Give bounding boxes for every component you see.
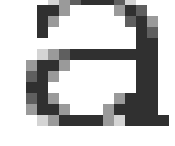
glyph-pixel <box>136 5 147 16</box>
glyph-pixel <box>48 71 59 82</box>
glyph-pixel <box>114 5 125 16</box>
glyph-pixel <box>48 60 59 71</box>
glyph-pixel <box>136 104 147 115</box>
glyph-pixel <box>125 104 136 115</box>
glyph-pixel <box>114 49 125 60</box>
glyph-pixel <box>92 49 103 60</box>
glyph-pixel <box>136 71 147 82</box>
glyph-pixel <box>92 0 103 5</box>
glyph-pixel <box>125 16 136 27</box>
glyph-pixel <box>103 0 114 5</box>
glyph-pixel <box>136 27 147 38</box>
glyph-pixel <box>125 49 136 60</box>
glyph-pixel <box>136 93 147 104</box>
glyph-pixel <box>48 104 59 115</box>
glyph-pixel <box>125 115 136 126</box>
glyph-pixel <box>136 82 147 93</box>
glyph-pixel <box>136 16 147 27</box>
glyph-pixel <box>81 115 92 126</box>
glyph-pixel <box>37 104 48 115</box>
glyph-pixel <box>103 115 114 126</box>
glyph-pixel <box>81 0 92 5</box>
glyph-pixel <box>37 60 48 71</box>
glyph-pixel <box>37 27 48 38</box>
glyph-pixel <box>136 115 147 126</box>
glyph-pixel <box>59 5 70 16</box>
glyph-pixel <box>26 60 37 71</box>
glyph-pixel <box>70 49 81 60</box>
glyph-pixel <box>48 93 59 104</box>
glyph-pixel <box>125 5 136 16</box>
glyph-pixel <box>59 49 70 60</box>
glyph-pixel <box>136 49 147 60</box>
glyph-pixel <box>70 0 81 5</box>
glyph-pixel <box>114 115 125 126</box>
glyph-pixel <box>136 60 147 71</box>
glyph-pixel <box>147 16 158 27</box>
glyph-pixel <box>59 60 70 71</box>
glyph-pixel <box>147 82 158 93</box>
glyph-pixel <box>26 104 37 115</box>
glyph-pixel <box>37 16 48 27</box>
glyph-pixel <box>114 93 125 104</box>
glyph-pixel <box>136 38 147 49</box>
glyph-pixel <box>125 93 136 104</box>
glyph-pixel <box>37 71 48 82</box>
glyph-pixel <box>147 49 158 60</box>
glyph-pixel <box>147 71 158 82</box>
glyph-pixel <box>48 5 59 16</box>
glyph-pixel <box>37 5 48 16</box>
glyph-pixel <box>37 49 48 60</box>
glyph-pixel <box>81 49 92 60</box>
glyph-pixel <box>147 27 158 38</box>
glyph-pixel <box>37 93 48 104</box>
glyph-pixel <box>26 71 37 82</box>
glyph-pixel <box>37 82 48 93</box>
glyph-pixel <box>147 38 158 49</box>
glyph-pixel <box>147 93 158 104</box>
glyph-pixel <box>70 115 81 126</box>
glyph-pixel <box>48 115 59 126</box>
glyph-pixel <box>59 115 70 126</box>
glyph-pixel <box>147 115 158 126</box>
glyph-pixel <box>26 82 37 93</box>
glyph-pixel <box>147 104 158 115</box>
glyph-pixel <box>158 115 169 126</box>
glyph-pixel <box>92 115 103 126</box>
glyph-pixel <box>59 104 70 115</box>
glyph-pixel <box>48 49 59 60</box>
glyph-pixel <box>103 104 114 115</box>
glyph-pixel <box>26 93 37 104</box>
letter-a-pixel-glyph <box>0 0 175 146</box>
glyph-pixel <box>48 16 59 27</box>
glyph-pixel <box>37 115 48 126</box>
glyph-pixel <box>114 104 125 115</box>
glyph-pixel <box>147 60 158 71</box>
glyph-pixel <box>103 49 114 60</box>
